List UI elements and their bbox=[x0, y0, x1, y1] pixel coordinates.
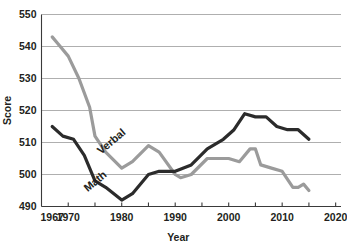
x-tick-label-2010: 2010 bbox=[270, 211, 294, 223]
x-axis-title: Year bbox=[167, 231, 189, 243]
y-axis-tick-labels: 490500510520530540550 bbox=[19, 8, 37, 212]
y-tick-label-520: 520 bbox=[19, 104, 37, 116]
chart-container: 490500510520530540550 196719701980199020… bbox=[0, 0, 347, 248]
y-tick-label-540: 540 bbox=[19, 40, 37, 52]
y-axis-title: Score bbox=[1, 96, 13, 125]
series-label-math: Math bbox=[81, 168, 109, 194]
series-inline-labels: VerbalMath bbox=[81, 126, 127, 194]
axis-tick-marks bbox=[68, 203, 335, 207]
x-axis-tick-labels: 1967197019801990200020102020 bbox=[41, 211, 347, 223]
y-tick-label-530: 530 bbox=[19, 72, 37, 84]
x-tick-label-2020: 2020 bbox=[324, 211, 347, 223]
y-tick-label-510: 510 bbox=[19, 136, 37, 148]
sat-scores-line-chart: 490500510520530540550 196719701980199020… bbox=[0, 0, 347, 248]
x-tick-label-2000: 2000 bbox=[217, 211, 241, 223]
y-tick-label-550: 550 bbox=[19, 8, 37, 20]
y-tick-label-500: 500 bbox=[19, 168, 37, 180]
x-tick-label-1980: 1980 bbox=[110, 211, 134, 223]
y-tick-label-490: 490 bbox=[19, 200, 37, 212]
x-tick-label-1990: 1990 bbox=[164, 211, 188, 223]
gridlines bbox=[42, 15, 342, 207]
x-tick-label-1970: 1970 bbox=[57, 211, 81, 223]
